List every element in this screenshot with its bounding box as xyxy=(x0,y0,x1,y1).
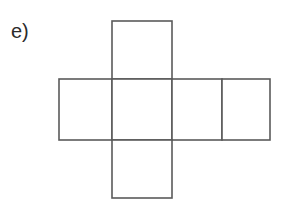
middle-left-face xyxy=(59,79,112,140)
top-face xyxy=(112,21,172,79)
figure-container: e) xyxy=(0,0,289,207)
bottom-face xyxy=(112,140,172,198)
net-faces-group xyxy=(59,21,270,198)
middle-right-face xyxy=(172,79,222,140)
middle-center-face xyxy=(112,79,172,140)
cube-net-diagram xyxy=(0,0,289,207)
far-right-face xyxy=(222,79,270,140)
